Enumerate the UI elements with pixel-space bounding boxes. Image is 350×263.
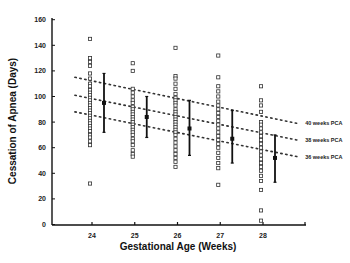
data-point <box>259 169 262 172</box>
y-tick-label: 140 <box>34 42 46 49</box>
data-point <box>217 131 220 134</box>
y-tick-label: 160 <box>34 16 46 23</box>
pca-reference-line <box>75 77 297 123</box>
data-point <box>88 85 91 88</box>
x-tick-label: 27 <box>216 232 224 239</box>
data-point <box>217 135 220 138</box>
data-point <box>259 135 262 138</box>
data-point <box>88 60 91 63</box>
data-point <box>217 167 220 170</box>
data-point <box>259 158 262 161</box>
chart: 020406080100120140160 2425262728 Cessati… <box>0 0 350 263</box>
error-bars <box>102 73 277 182</box>
data-point <box>217 108 220 111</box>
data-point <box>217 138 220 141</box>
data-point <box>259 131 262 134</box>
data-point <box>259 104 262 107</box>
data-point <box>88 182 91 185</box>
data-point <box>88 64 91 67</box>
reference-lines: 40 weeks PCA38 weeks PCA36 weeks PCA <box>75 77 343 159</box>
data-point <box>217 151 220 154</box>
y-tick-label: 20 <box>38 195 46 202</box>
data-point <box>174 165 177 168</box>
data-point <box>259 165 262 168</box>
data-point <box>259 85 262 88</box>
data-point <box>259 150 262 153</box>
data-point <box>174 104 177 107</box>
mean-marker <box>102 101 106 105</box>
data-point <box>174 92 177 95</box>
data-point <box>131 62 134 65</box>
data-point <box>174 141 177 144</box>
data-point <box>259 138 262 141</box>
mean-marker <box>273 156 277 160</box>
data-point <box>217 104 220 107</box>
y-tick-label: 80 <box>38 119 46 126</box>
x-tick-label: 28 <box>259 232 267 239</box>
data-point <box>174 87 177 90</box>
data-point <box>217 115 220 118</box>
y-tick-label: 40 <box>38 170 46 177</box>
data-point <box>174 46 177 49</box>
data-point <box>174 149 177 152</box>
x-tick-label: 26 <box>174 232 182 239</box>
data-point <box>174 133 177 136</box>
data-point <box>259 142 262 145</box>
data-point <box>88 144 91 147</box>
data-point <box>259 179 262 182</box>
data-point <box>217 95 220 98</box>
data-point <box>217 54 220 57</box>
data-point <box>131 69 134 72</box>
data-point <box>131 149 134 152</box>
pca-reference-line <box>75 95 297 140</box>
data-point <box>88 136 91 139</box>
data-point <box>259 146 262 149</box>
y-tick-label: 60 <box>38 144 46 151</box>
data-point <box>259 209 262 212</box>
data-point <box>217 127 220 130</box>
data-point <box>259 219 262 222</box>
data-point <box>88 77 91 80</box>
pca-reference-label: 36 weeks PCA <box>305 154 342 160</box>
data-point <box>217 112 220 115</box>
data-point <box>131 133 134 136</box>
data-point <box>259 127 262 130</box>
y-axis-title: Cessation of Apnea (Days) <box>7 58 18 184</box>
data-point <box>259 110 262 113</box>
data-point <box>217 85 220 88</box>
data-point <box>174 156 177 159</box>
data-point <box>217 142 220 145</box>
data-point <box>88 37 91 40</box>
x-axis-title: Gestational Age (Weeks) <box>120 241 237 252</box>
data-point <box>217 161 220 164</box>
pca-reference-label: 38 weeks PCA <box>305 137 342 143</box>
data-point <box>259 99 262 102</box>
y-tick-label: 0 <box>42 221 46 228</box>
data-point <box>259 161 262 164</box>
data-point <box>217 76 220 79</box>
data-point <box>259 123 262 126</box>
data-point <box>174 82 177 85</box>
pca-reference-label: 40 weeks PCA <box>305 120 342 126</box>
data-point <box>131 155 134 158</box>
data-point <box>131 140 134 143</box>
data-point <box>217 156 220 159</box>
data-point <box>174 137 177 140</box>
data-point <box>259 174 262 177</box>
data-point <box>88 57 91 60</box>
data-point <box>88 72 91 75</box>
data-point <box>88 129 91 132</box>
data-point <box>259 188 262 191</box>
data-point <box>217 119 220 122</box>
data-point <box>131 101 134 104</box>
data-point <box>259 154 262 157</box>
pca-reference-line <box>75 112 297 157</box>
data-point <box>217 183 220 186</box>
y-tick-label: 100 <box>34 93 46 100</box>
x-tick-label: 24 <box>88 232 96 239</box>
data-point <box>174 145 177 148</box>
data-point <box>174 160 177 163</box>
data-point <box>174 153 177 156</box>
data-point <box>131 87 134 90</box>
data-point <box>131 144 134 147</box>
